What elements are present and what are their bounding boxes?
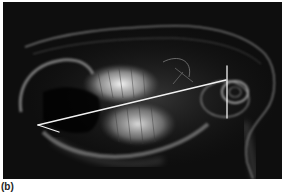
lower-molars [100, 102, 176, 146]
xray-image [3, 2, 282, 179]
skull-radiograph [3, 2, 282, 179]
panel-label: (b) [1, 181, 14, 193]
